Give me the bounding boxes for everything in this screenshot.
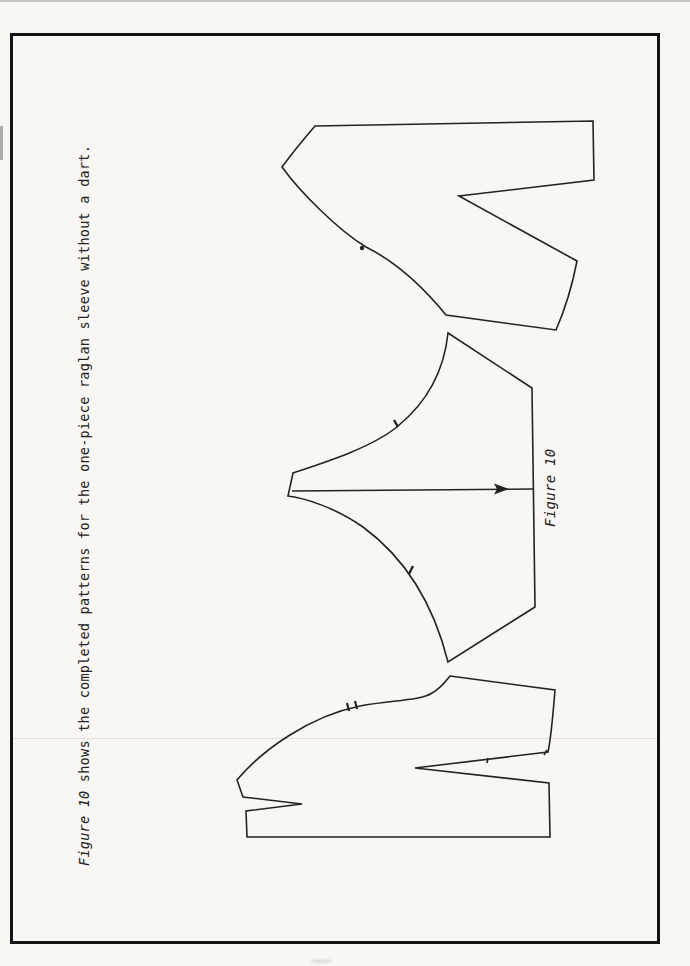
front-bodice-notch-seam-tick [487,758,488,763]
figure-caption: Figure 10 shows the completed patterns f… [69,144,99,866]
caption-figure-ref: Figure 10 [76,791,92,866]
back-bodice-pattern-outline [282,121,594,330]
sleeve-lower-notch-tick [409,566,413,574]
caption-text: shows the completed patterns for the one… [76,145,92,791]
back-bodice-notch-dot [360,246,364,250]
pattern-diagram [0,0,690,966]
raglan-sleeve-pattern-outline [288,333,535,662]
scanned-page: Figure 10 shows the completed patterns f… [0,0,690,966]
sleeve-upper-notch-tick [394,420,398,427]
grainline-arrow [292,484,533,495]
front-bodice-pattern-outline [237,676,555,837]
figure-label: Figure 10 [539,437,561,527]
